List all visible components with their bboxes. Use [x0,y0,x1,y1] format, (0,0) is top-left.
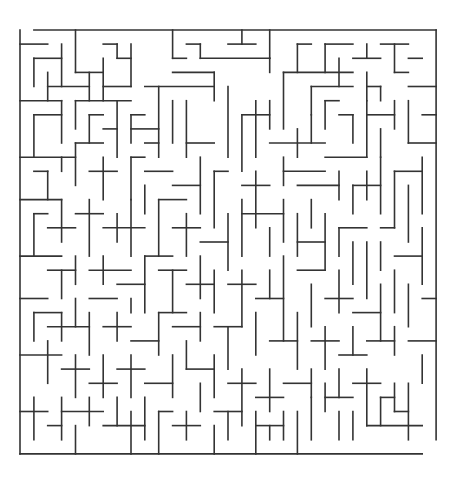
maze-canvas [0,0,460,479]
maze-walls [20,30,436,454]
